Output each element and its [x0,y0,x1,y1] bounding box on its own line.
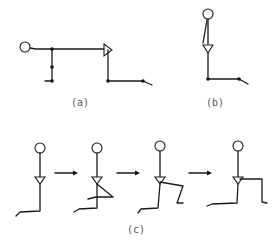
panel-a-label: (a) [71,97,89,108]
back-leg-line [207,184,238,206]
hip-triangle-icon [233,177,243,184]
leg-line [108,50,152,85]
panel-c-step-4 [207,141,267,206]
panel-c-label: (c) [127,224,145,235]
arm-line [45,49,52,81]
panel-b-figure [203,9,248,84]
panel-b-label: (b) [206,97,224,108]
joint-dot [50,79,54,83]
hip-triangle-icon [203,45,213,53]
front-leg-line [240,179,267,203]
head-icon [233,141,243,151]
hip-triangle-icon [35,177,45,184]
pose-diagram: (a) (b) [0,0,274,246]
panel-c-step-2 [74,143,113,212]
sequence-arrow-2 [117,171,140,176]
joint-dot [50,65,54,69]
head-icon [20,42,30,52]
joint-dot [50,47,54,51]
panel-c-step-3 [138,141,183,213]
joint-dot [106,79,110,83]
leg-line [208,53,248,84]
head-icon [35,143,45,153]
panel-c-step-1 [16,143,45,216]
hip-triangle-icon [92,177,102,184]
joint-dot [141,79,145,83]
torso-line [30,48,107,49]
back-leg-line [138,184,160,213]
joint-dot [206,77,210,81]
head-icon [155,141,165,151]
leg-line [16,184,40,216]
joint-dot [237,77,241,81]
sequence-arrow-1 [55,171,78,176]
head-icon [203,9,213,19]
front-leg-line [160,182,183,203]
panel-a-figure [20,42,152,85]
sequence-arrow-3 [189,171,212,176]
arm-line [203,20,207,43]
head-icon [92,143,102,153]
front-leg-line [88,184,113,199]
